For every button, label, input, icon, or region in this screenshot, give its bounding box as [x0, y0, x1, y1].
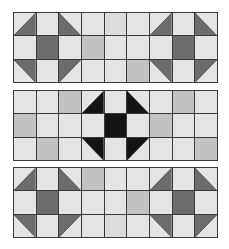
half-square-triangle [150, 13, 172, 35]
light-square [127, 13, 149, 35]
light-square [37, 114, 59, 136]
half-square-triangle [195, 60, 217, 82]
half-square-triangle [150, 168, 172, 190]
light-square [37, 91, 59, 113]
light-square [195, 114, 217, 136]
medium-square [150, 114, 172, 136]
half-square-triangle [195, 13, 217, 35]
medium-square [82, 168, 104, 190]
half-square-triangle [59, 13, 81, 35]
light-square [37, 168, 59, 190]
half-square-triangle [14, 60, 36, 82]
light-square [105, 138, 127, 160]
half-square-triangle [59, 215, 81, 237]
half-square-triangle [150, 60, 172, 82]
medium-square [14, 114, 36, 136]
triangle-shape [195, 13, 217, 35]
light-square [82, 114, 104, 136]
light-square [14, 191, 36, 213]
light-square [82, 191, 104, 213]
light-square [59, 138, 81, 160]
medium-square [127, 191, 149, 213]
dark-center-square [37, 191, 59, 213]
triangle-shape [59, 168, 81, 190]
light-square [105, 215, 127, 237]
light-square [173, 60, 195, 82]
triangle-shape [150, 60, 172, 82]
light-square [82, 60, 104, 82]
light-square [105, 168, 127, 190]
light-square [173, 138, 195, 160]
half-square-triangle [82, 138, 104, 160]
light-square [195, 191, 217, 213]
light-square [14, 36, 36, 58]
triangle-shape [59, 13, 81, 35]
dark-center-square [105, 114, 127, 136]
triangle-shape [150, 168, 172, 190]
light-square [195, 36, 217, 58]
light-square [173, 168, 195, 190]
light-square [173, 114, 195, 136]
light-square [82, 215, 104, 237]
medium-square [59, 91, 81, 113]
quilt-strip-top [13, 12, 218, 83]
light-square [150, 191, 172, 213]
light-square [59, 114, 81, 136]
triangle-shape [82, 138, 104, 160]
quilt-strip-middle [13, 90, 218, 161]
light-square [105, 36, 127, 58]
triangle-shape [127, 138, 149, 160]
dark-center-square [173, 191, 195, 213]
half-square-triangle [127, 91, 149, 113]
light-square [150, 91, 172, 113]
half-square-triangle [150, 215, 172, 237]
triangle-shape [14, 168, 36, 190]
triangle-shape [195, 60, 217, 82]
medium-square [173, 91, 195, 113]
triangle-shape [195, 215, 217, 237]
triangle-shape [14, 60, 36, 82]
light-square [105, 191, 127, 213]
light-square [195, 91, 217, 113]
light-square [105, 60, 127, 82]
half-square-triangle [14, 168, 36, 190]
half-square-triangle [59, 60, 81, 82]
medium-square [127, 60, 149, 82]
light-square [127, 36, 149, 58]
light-square [173, 13, 195, 35]
light-square [14, 138, 36, 160]
light-square [37, 13, 59, 35]
light-square [14, 91, 36, 113]
triangle-shape [14, 13, 36, 35]
light-square [37, 215, 59, 237]
medium-square [82, 36, 104, 58]
light-square [150, 138, 172, 160]
triangle-shape [59, 215, 81, 237]
triangle-shape [59, 60, 81, 82]
light-square [59, 36, 81, 58]
half-square-triangle [14, 13, 36, 35]
light-square [59, 191, 81, 213]
light-square [173, 215, 195, 237]
dark-center-square [37, 36, 59, 58]
half-square-triangle [127, 138, 149, 160]
quilt-strip-bottom [13, 167, 218, 238]
medium-square [195, 138, 217, 160]
light-square [127, 114, 149, 136]
half-square-triangle [195, 168, 217, 190]
light-square [127, 168, 149, 190]
triangle-shape [150, 215, 172, 237]
dark-center-square [173, 36, 195, 58]
light-square [127, 215, 149, 237]
half-square-triangle [14, 215, 36, 237]
triangle-shape [150, 13, 172, 35]
light-square [105, 91, 127, 113]
light-square [37, 60, 59, 82]
triangle-shape [14, 215, 36, 237]
half-square-triangle [82, 91, 104, 113]
half-square-triangle [59, 168, 81, 190]
light-square [150, 36, 172, 58]
triangle-shape [82, 91, 104, 113]
half-square-triangle [195, 215, 217, 237]
light-square [82, 13, 104, 35]
